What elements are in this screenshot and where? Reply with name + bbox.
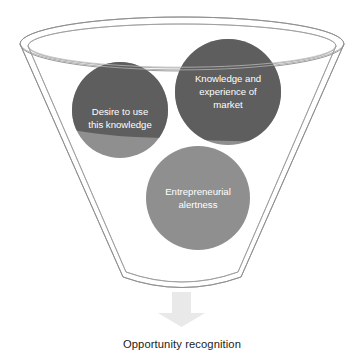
down-arrow-shape	[158, 292, 205, 327]
circle-knowledge-label-line2: experience of	[199, 86, 257, 97]
circle-alertness-label-line1: Entrepreneurial	[165, 186, 231, 197]
down-arrow	[158, 292, 205, 327]
circle-knowledge[interactable]: Knowledge and experience of market	[175, 39, 281, 145]
circle-knowledge-label-line1: Knowledge and	[195, 73, 261, 84]
circle-desire-label-line2: this knowledge	[88, 119, 151, 130]
circle-desire[interactable]: Desire to use this knowledge	[72, 62, 168, 158]
diagram-canvas: Entrepreneurial alertness Desire to use …	[0, 0, 364, 363]
circle-desire-label-line1: Desire to use	[92, 106, 149, 117]
circle-knowledge-label-line3: market	[213, 99, 243, 110]
circle-alertness[interactable]: Entrepreneurial alertness	[146, 146, 250, 250]
funnel-diagram-svg: Entrepreneurial alertness Desire to use …	[0, 0, 364, 363]
opportunity-recognition-caption: Opportunity recognition	[0, 338, 364, 350]
circle-alertness-label-line2: alertness	[179, 199, 218, 210]
